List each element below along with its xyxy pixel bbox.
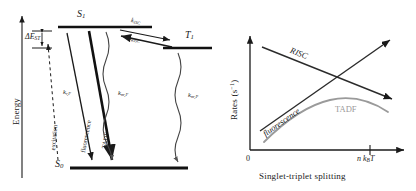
rates-axis-paren: ) — [229, 80, 239, 83]
krisc-subscript: RISC — [130, 37, 140, 44]
x-tick-label-nkbt: n kBT — [357, 155, 374, 164]
rates-plot-svg — [212, 0, 416, 191]
knrp-subscript: nr,P — [191, 94, 198, 99]
x-tick-label-origin: 0 — [246, 155, 250, 163]
figure-container: Energy S1 T1 S0 ΔEST kISC kRISC kr,F — [0, 0, 416, 191]
s0-subscript: 0 — [60, 162, 63, 169]
jablonski-diagram-panel: Energy S1 T1 S0 ΔEST kISC kRISC kr,F — [0, 0, 212, 191]
knrp-wavy-arrow — [175, 53, 181, 162]
st-subscript: ST — [35, 35, 41, 41]
x-axis-label: Singlet-triplet splitting — [259, 172, 346, 181]
risc-curve — [262, 47, 392, 99]
knrp-label: knr,P — [188, 92, 198, 99]
t1-subscript: 1 — [191, 33, 194, 40]
kisc-label: kISC — [130, 17, 141, 26]
rates-axis-text: Rates (s — [229, 90, 239, 120]
kisc-subscript: ISC — [133, 20, 140, 26]
krf-subscript: r,F — [66, 91, 71, 96]
nkbt-end: T — [370, 154, 374, 163]
delta-est-label: ΔEST — [25, 33, 40, 42]
tadf-curve-label: TADF — [335, 105, 357, 114]
rates-axis-exponent: −1 — [229, 83, 235, 90]
rates-axis-label: Rates (s−1) — [229, 80, 239, 120]
jablonski-svg — [0, 0, 212, 191]
nkbt-text: n k — [357, 154, 367, 163]
t1-label: T1 — [185, 30, 194, 41]
s0-label: S0 — [55, 159, 63, 170]
s1-label: S1 — [77, 9, 85, 20]
krf-label: kr,F — [63, 89, 71, 96]
knrf-label: knr,F — [118, 90, 128, 97]
energy-axis-label: Energy — [12, 98, 21, 125]
rates-plot-panel: Rates (s−1) Singlet-triplet splitting 0 … — [212, 0, 416, 191]
s1-subscript: 1 — [82, 12, 85, 19]
knrf-subscript: nr,F — [121, 92, 128, 97]
